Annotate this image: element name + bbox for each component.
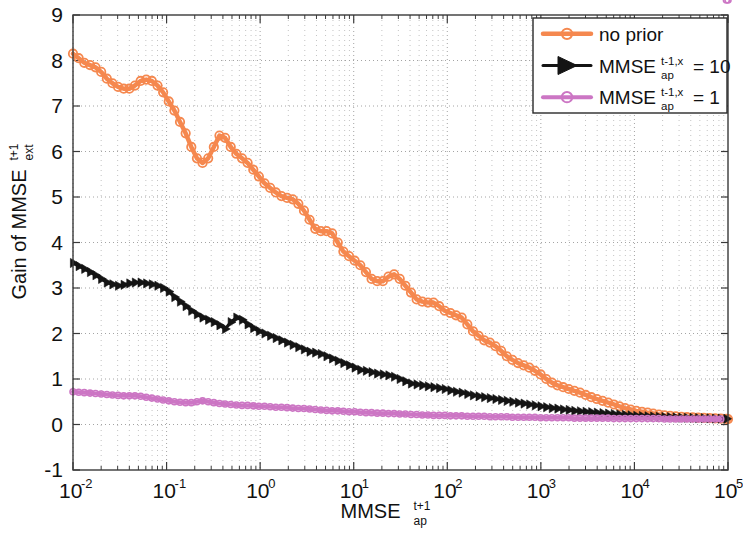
legend-label-superscript: t-1,x: [661, 55, 684, 67]
y-tick-label: 5: [51, 185, 63, 208]
x-axis-title-superscript: t+1: [414, 499, 431, 513]
y-axis-title: Gain of MMSE: [8, 169, 30, 299]
x-axis-tick-labels: 10-210-1100101102103104105: [59, 476, 743, 502]
chart-figure: 10-210-1100101102103104105 -10123456789 …: [0, 0, 743, 540]
legend-label: MMSE: [599, 87, 656, 108]
y-tick-label: 1: [51, 367, 63, 390]
legend-label-value: = 10: [693, 56, 731, 77]
legend-label-superscript: t-1,x: [661, 86, 684, 98]
x-tick-exponent: 2: [455, 476, 462, 491]
x-axis-title-subscript: ap: [414, 514, 428, 528]
y-tick-label: 8: [51, 49, 63, 72]
x-tick-label: 10: [714, 479, 737, 502]
x-tick-label: 10: [59, 479, 82, 502]
y-axis-title-superscript: t+1: [7, 143, 21, 160]
legend-label-subscript: ap: [661, 100, 674, 112]
y-tick-label: 3: [51, 276, 63, 299]
series-line: [73, 263, 726, 419]
x-tick-exponent: -1: [175, 476, 187, 491]
chart-legend: no priorMMSEt-1,xap= 10MMSEt-1,xap= 1: [533, 18, 731, 113]
x-tick-label: 10: [246, 479, 269, 502]
legend-label: no prior: [599, 24, 664, 45]
x-axis-title: MMSE: [341, 500, 401, 522]
x-tick-label: 10: [433, 479, 456, 502]
legend-label-subscript: ap: [661, 69, 674, 81]
y-tick-label: 6: [51, 140, 63, 163]
y-tick-label: 2: [51, 322, 63, 345]
x-tick-label: 10: [340, 479, 363, 502]
x-tick-exponent: 1: [362, 476, 369, 491]
y-tick-label: 7: [51, 94, 63, 117]
x-tick-exponent: -2: [81, 476, 93, 491]
x-tick-label: 10: [153, 479, 176, 502]
x-tick-exponent: 5: [736, 476, 743, 491]
y-tick-label: 0: [51, 413, 63, 436]
y-axis-title-group: Gain of MMSEt+1ext: [7, 143, 36, 299]
y-axis-tick-labels: -10123456789: [44, 3, 63, 481]
y-tick-label: -1: [44, 458, 63, 481]
y-tick-label: 9: [51, 3, 63, 26]
x-tick-label: 10: [620, 479, 643, 502]
y-tick-label: 4: [51, 231, 63, 254]
x-tick-exponent: 4: [642, 476, 649, 491]
x-tick-exponent: 0: [268, 476, 275, 491]
x-tick-label: 10: [527, 479, 550, 502]
x-tick-exponent: 3: [549, 476, 556, 491]
y-axis-title-subscript: ext: [22, 144, 36, 161]
legend-label-value: = 1: [693, 87, 720, 108]
legend-label: MMSE: [599, 56, 656, 77]
